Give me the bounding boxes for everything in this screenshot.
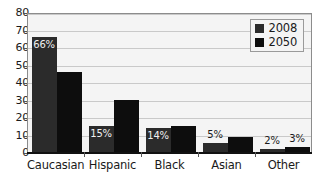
bar: 14% (146, 128, 171, 153)
legend-label: 2050 (269, 37, 297, 48)
x-axis-tick-mark (255, 152, 256, 157)
x-axis-category-label: Other (255, 159, 312, 172)
bar-value-label: 15% (90, 129, 111, 139)
bar-value-label: 3% (289, 134, 304, 144)
x-axis-category-label: Asian (198, 159, 255, 172)
x-axis-tick-mark (198, 152, 199, 157)
bar: 5% (203, 143, 228, 152)
bar-group: 15%30% (85, 14, 142, 152)
bar-chart: 80706050403020100 66%46%15%30%14%15%5%9%… (0, 0, 318, 184)
bar-value-label: 66% (33, 40, 54, 50)
bar: 46% (57, 72, 82, 153)
legend-item: 2050 (255, 37, 297, 48)
bar-value-label: 2% (264, 136, 279, 146)
x-axis-tick-mark (84, 152, 85, 157)
legend-item: 2008 (255, 23, 297, 34)
legend-label: 2008 (269, 23, 297, 34)
bar: 9% (228, 137, 253, 152)
bar-group: 5%9% (199, 14, 256, 152)
x-axis-category-label: Caucasian (27, 159, 84, 172)
bar-value-label: 14% (147, 131, 168, 141)
bar: 66% (32, 37, 57, 153)
legend-swatch-icon (255, 38, 264, 47)
x-axis-tick-mark (141, 152, 142, 157)
bar-value-label: 5% (207, 130, 222, 140)
bar: 15% (89, 126, 114, 152)
x-axis-category-label: Hispanic (84, 159, 141, 172)
bar-group: 66%46% (28, 14, 85, 152)
x-axis-category-label: Black (141, 159, 198, 172)
legend-swatch-icon (255, 24, 264, 33)
bar-group: 14%15% (142, 14, 199, 152)
bar: 30% (114, 100, 139, 153)
plot-area: 66%46%15%30%14%15%5%9%2%3% 20082050 (27, 13, 312, 153)
chart-legend: 20082050 (250, 19, 304, 52)
bar: 15% (171, 126, 196, 152)
x-axis-line (27, 152, 312, 154)
